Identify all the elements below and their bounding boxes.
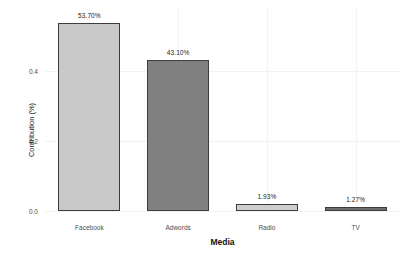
x-tick-label-tv: TV xyxy=(351,224,359,231)
gridline-vertical xyxy=(267,8,268,211)
bar-chart: 53.70%43.10%1.93%1.27% 0.00.20.4 Faceboo… xyxy=(0,0,418,259)
bar-value-label-adwords: 43.10% xyxy=(134,49,223,56)
bar-radio xyxy=(236,204,298,211)
gridline-vertical xyxy=(356,8,357,211)
x-tick-label-facebook: Facebook xyxy=(75,224,104,231)
bar-value-label-tv: 1.27% xyxy=(311,196,400,203)
bar-adwords xyxy=(147,60,209,211)
x-tick-label-radio: Radio xyxy=(258,224,275,231)
y-axis-title: Contribution (%) xyxy=(27,102,36,156)
bar-value-label-facebook: 53.70% xyxy=(45,12,134,19)
plot-area: 53.70%43.10%1.93%1.27% xyxy=(45,8,400,211)
y-tick-label: 0.4 xyxy=(0,68,38,75)
gridline-horizontal xyxy=(45,211,400,212)
bar-facebook xyxy=(58,23,120,211)
bar-value-label-radio: 1.93% xyxy=(223,193,312,200)
x-tick-label-adwords: Adwords xyxy=(165,224,190,231)
bar-tv xyxy=(325,207,387,211)
x-axis-title: Media xyxy=(45,237,400,247)
y-tick-label: 0.0 xyxy=(0,208,38,215)
